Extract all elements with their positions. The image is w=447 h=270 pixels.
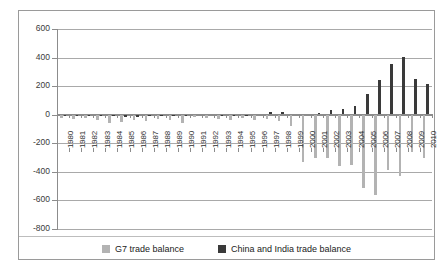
x-tick-2009 bbox=[408, 114, 409, 118]
y-tick-400 bbox=[52, 58, 58, 59]
x-tick-2004 bbox=[347, 114, 348, 118]
x-tick-2003 bbox=[335, 114, 336, 118]
y-axis-label-200: 200 bbox=[4, 81, 50, 90]
x-tick-lower-2002 bbox=[323, 148, 324, 152]
bar-china-india-2009 bbox=[414, 79, 417, 115]
x-axis-label-1985: 1985 bbox=[127, 131, 136, 148]
x-axis-label-2004: 2004 bbox=[357, 131, 366, 148]
x-tick-1984 bbox=[105, 114, 106, 118]
x-tick-lower-1993 bbox=[214, 148, 215, 152]
x-tick-1994 bbox=[226, 114, 227, 118]
x-axis-label-1994: 1994 bbox=[236, 131, 245, 148]
y-axis-label-600: 600 bbox=[4, 24, 50, 33]
y-axis-label-0: 0 bbox=[4, 110, 50, 119]
y-axis-label-400: 400 bbox=[4, 53, 50, 62]
x-tick-lower-1996 bbox=[251, 148, 252, 152]
x-tick-2005 bbox=[359, 114, 360, 118]
x-tick-lower-2003 bbox=[335, 148, 336, 152]
x-tick-2007 bbox=[384, 114, 385, 118]
x-tick-1987 bbox=[142, 114, 143, 118]
legend-item-g7: G7 trade balance bbox=[102, 244, 184, 254]
x-tick-1991 bbox=[190, 114, 191, 118]
x-tick-2008 bbox=[396, 114, 397, 118]
y-tick--400 bbox=[52, 172, 58, 173]
x-tick-2002 bbox=[323, 114, 324, 118]
x-axis-label-2003: 2003 bbox=[344, 131, 353, 148]
x-tick-lower-1991 bbox=[190, 148, 191, 152]
y-axis-label--200: -200 bbox=[4, 138, 50, 147]
x-axis-label-2006: 2006 bbox=[381, 131, 390, 148]
x-tick-lower-1981 bbox=[69, 148, 70, 152]
x-axis-label-1993: 1993 bbox=[224, 131, 233, 148]
x-tick-lower-1980 bbox=[57, 148, 58, 152]
x-axis-label-1988: 1988 bbox=[163, 131, 172, 148]
x-tick-lower-1998 bbox=[275, 148, 276, 152]
x-axis-label-2009: 2009 bbox=[417, 131, 426, 148]
x-tick-lower-2008 bbox=[396, 148, 397, 152]
bar-china-india-2007 bbox=[390, 64, 393, 115]
x-tick-2010 bbox=[420, 114, 421, 118]
x-axis-label-1992: 1992 bbox=[211, 131, 220, 148]
y-axis-label--400: -400 bbox=[4, 167, 50, 176]
x-axis-label-1999: 1999 bbox=[296, 131, 305, 148]
x-tick-1982 bbox=[81, 114, 82, 118]
x-tick-lower-2005 bbox=[359, 148, 360, 152]
x-tick-lower-2007 bbox=[384, 148, 385, 152]
x-tick-lower-1995 bbox=[238, 148, 239, 152]
legend-swatch-g7-icon bbox=[102, 245, 110, 253]
legend-divider bbox=[19, 236, 434, 237]
x-axis-label-2000: 2000 bbox=[308, 131, 317, 148]
x-tick-2000 bbox=[299, 114, 300, 118]
x-axis-label-1980: 1980 bbox=[66, 131, 75, 148]
x-tick-end bbox=[432, 114, 433, 118]
x-tick-lower-2010 bbox=[420, 148, 421, 152]
x-tick-1989 bbox=[166, 114, 167, 118]
y-axis-label--600: -600 bbox=[4, 195, 50, 204]
x-axis-label-1983: 1983 bbox=[103, 131, 112, 148]
y-tick--200 bbox=[52, 143, 58, 144]
x-tick-lower-1988 bbox=[154, 148, 155, 152]
x-tick-1983 bbox=[93, 114, 94, 118]
x-axis-label-1986: 1986 bbox=[139, 131, 148, 148]
y-tick--800 bbox=[52, 229, 58, 230]
legend-item-china-india: China and India trade balance bbox=[218, 244, 351, 254]
x-tick-lower-1997 bbox=[263, 148, 264, 152]
x-tick-lower-1999 bbox=[287, 148, 288, 152]
x-tick-lower-2009 bbox=[408, 148, 409, 152]
x-tick-1990 bbox=[178, 114, 179, 118]
x-tick-2001 bbox=[311, 114, 312, 118]
x-tick-1981 bbox=[69, 114, 70, 118]
x-tick-1992 bbox=[202, 114, 203, 118]
x-tick-lower-1994 bbox=[226, 148, 227, 152]
x-tick-lower-1984 bbox=[105, 148, 106, 152]
x-axis-label-2010: 2010 bbox=[429, 131, 438, 148]
x-tick-2006 bbox=[372, 114, 373, 118]
x-axis-label-1997: 1997 bbox=[272, 131, 281, 148]
bar-china-india-2005 bbox=[366, 94, 369, 114]
x-axis-label-1991: 1991 bbox=[199, 131, 208, 148]
x-tick-lower-1983 bbox=[93, 148, 94, 152]
x-tick-1997 bbox=[263, 114, 264, 118]
legend-label-china-india: China and India trade balance bbox=[231, 244, 351, 254]
x-axis-label-1989: 1989 bbox=[175, 131, 184, 148]
x-axis-label-1995: 1995 bbox=[248, 131, 257, 148]
x-tick-lower-2006 bbox=[372, 148, 373, 152]
x-axis-label-2005: 2005 bbox=[369, 131, 378, 148]
x-tick-lower-1986 bbox=[130, 148, 131, 152]
bar-china-india-2006 bbox=[378, 80, 381, 114]
x-tick-1985 bbox=[117, 114, 118, 118]
x-axis-label-2002: 2002 bbox=[332, 131, 341, 148]
x-tick-lower-2004 bbox=[347, 148, 348, 152]
x-tick-lower-2000 bbox=[299, 148, 300, 152]
bar-china-india-2010 bbox=[426, 84, 429, 115]
legend-label-g7: G7 trade balance bbox=[115, 244, 184, 254]
chart-legend: G7 trade balance China and India trade b… bbox=[18, 238, 435, 260]
y-tick-0 bbox=[52, 115, 58, 116]
x-tick-lower-1990 bbox=[178, 148, 179, 152]
bar-china-india-2008 bbox=[402, 57, 405, 115]
x-axis-label-2001: 2001 bbox=[320, 131, 329, 148]
x-tick-lower-1987 bbox=[142, 148, 143, 152]
x-tick-lower-1985 bbox=[117, 148, 118, 152]
x-tick-1998 bbox=[275, 114, 276, 118]
x-axis-label-1981: 1981 bbox=[78, 131, 87, 148]
